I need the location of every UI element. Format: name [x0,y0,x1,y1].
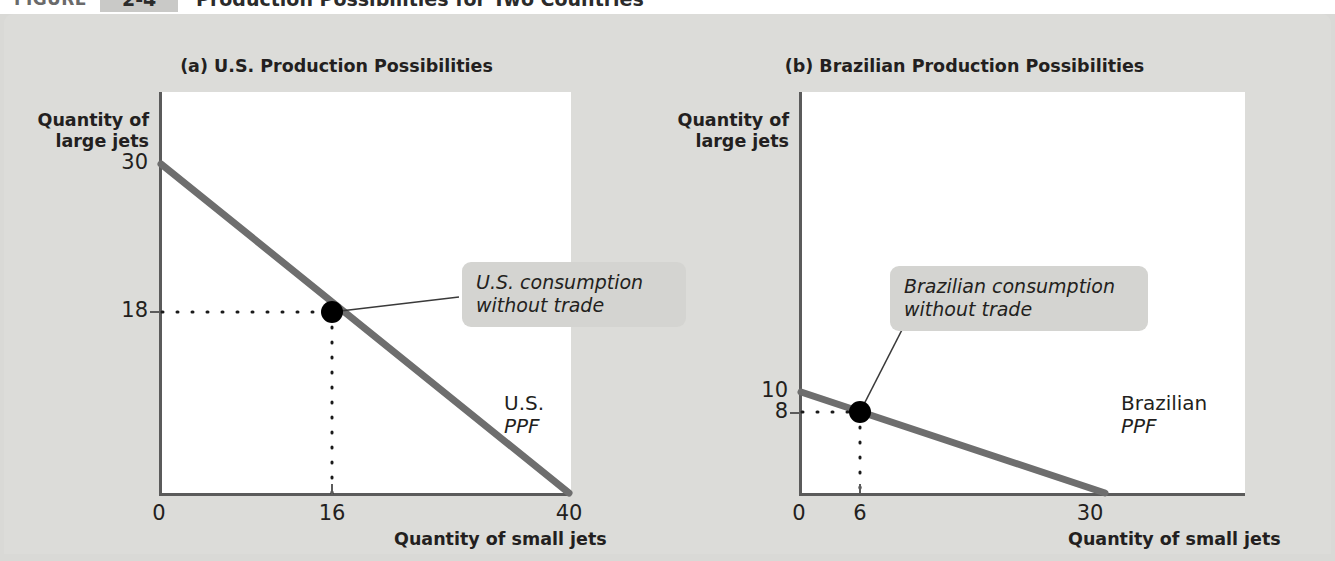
us-ppf-label: U.S. PPF [504,392,544,438]
panel-brazil-x-tick-30: 30 [1064,501,1116,525]
panel-us-y-axis-title: Quantity of large jets [9,110,149,151]
panel-us-y-tick-18: 18 [96,298,148,322]
panel-us-x-axis-line [159,493,571,496]
figure-label-word: FIGURE [14,0,87,9]
brazil-consumption-callout: Brazilian consumption without trade [890,266,1148,331]
brazil-ppf-label-line2: PPF [1121,415,1207,438]
panel-us-title: (a) U.S. Production Possibilities [4,56,669,76]
figure-body: (a) U.S. Production Possibilities Quanti… [4,14,1331,554]
us-callout-leader-line [332,297,459,312]
panel-us: (a) U.S. Production Possibilities Quanti… [4,14,669,554]
panel-us-x-tick-0: 0 [133,501,185,525]
us-ppf-curve [161,164,569,493]
brazil-consumption-point [849,401,871,423]
panel-us-x-tick-40: 40 [543,501,595,525]
panel-brazil-y-axis-title: Quantity of large jets [649,110,789,151]
figure-title: Production Possibilities for Two Countri… [196,0,644,10]
panel-brazil-x-tick-0: 0 [773,501,825,525]
us-consumption-point [321,301,343,323]
figure-number: 2-4 [122,0,156,10]
figure-page: FIGURE 2-4 Production Possibilities for … [0,0,1335,561]
brazil-ppf-curve [801,392,1105,493]
brazil-ppf-label-line1: Brazilian [1121,392,1207,415]
panel-brazil-x-axis-title: Quantity of small jets [1068,529,1281,549]
panel-us-y-tick-30: 30 [96,150,148,174]
panel-us-y-axis-line [159,92,162,496]
panel-us-x-tick-mark-16 [331,484,333,495]
panel-brazil-y-tick-8: 8 [736,399,788,423]
panel-brazil: (b) Brazilian Production Possibilities Q… [644,14,1331,554]
panel-brazil-x-axis-line [799,493,1245,496]
panel-brazil-x-tick-6: 6 [834,501,886,525]
us-ppf-label-line1: U.S. [504,392,544,415]
panel-brazil-y-axis-line [799,92,802,496]
panel-us-x-tick-16: 16 [306,501,358,525]
panel-brazil-title: (b) Brazilian Production Possibilities [644,56,1331,76]
brazil-ppf-label: Brazilian PPF [1121,392,1207,438]
brazil-callout-leader-line [860,320,907,412]
panel-brazil-x-tick-mark-6 [859,484,861,495]
us-ppf-label-line2: PPF [504,415,544,438]
figure-header: FIGURE 2-4 Production Possibilities for … [0,0,1335,14]
panel-us-x-axis-title: Quantity of small jets [394,529,607,549]
